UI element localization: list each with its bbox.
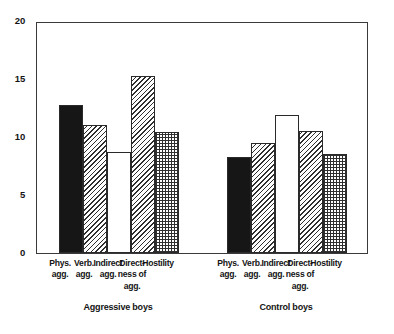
x-label-control-hostility: Hostility bbox=[309, 258, 343, 269]
y-axis-tick-5: 5 bbox=[0, 196, 36, 197]
group-label-control-boys: Control boys bbox=[226, 301, 346, 313]
bar-control-phys-agg bbox=[227, 157, 251, 253]
y-axis-tick-20: 20 bbox=[0, 22, 36, 23]
bar-aggressive-hostility bbox=[155, 132, 179, 253]
bar-aggressive-phys-agg bbox=[59, 105, 83, 253]
y-axis-tick-label-15: 15 bbox=[15, 73, 25, 85]
y-axis-tick-label-5: 5 bbox=[20, 189, 25, 201]
y-axis-tick-label-0: 0 bbox=[20, 247, 25, 259]
bar-aggressive-directness-agg bbox=[131, 76, 155, 253]
y-axis-tick-10: 10 bbox=[0, 138, 36, 139]
bar-control-indirect-agg bbox=[275, 115, 299, 253]
bar-chart-figure: 20 15 10 5 0 Phys. agg. Verb. agg. Indir… bbox=[0, 0, 394, 334]
y-axis-tick-15: 15 bbox=[0, 80, 36, 81]
bar-control-verb-agg bbox=[251, 143, 275, 253]
bar-aggressive-verb-agg bbox=[83, 125, 107, 253]
y-axis-tick-label-10: 10 bbox=[15, 131, 25, 143]
group-label-aggressive-boys: Aggressive boys bbox=[58, 301, 178, 313]
bar-control-hostility bbox=[323, 154, 347, 253]
plot-area bbox=[36, 22, 368, 254]
bar-aggressive-indirect-agg bbox=[107, 152, 131, 253]
y-axis-tick-label-20: 20 bbox=[15, 15, 25, 27]
bar-control-directness-agg bbox=[299, 131, 323, 253]
y-axis-tick-0: 0 bbox=[0, 254, 36, 255]
x-label-aggressive-hostility: Hostility bbox=[141, 258, 175, 269]
